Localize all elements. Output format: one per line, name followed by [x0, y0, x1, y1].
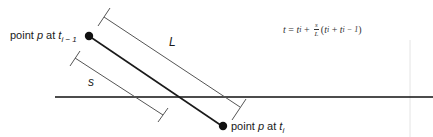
- end-point-label: point p at ti: [231, 121, 284, 135]
- formula-paren: ): [358, 24, 361, 35]
- length-L-label: L: [169, 36, 176, 48]
- start-point-dot: [85, 32, 93, 40]
- label-text: point: [10, 29, 37, 41]
- fraction-denominator: L: [314, 30, 318, 38]
- start-point-label: point p at ti − 1: [10, 30, 77, 44]
- interpolation-formula: t = ti + s L (ti + ti − 1): [283, 21, 362, 38]
- length-s-label: s: [88, 76, 94, 88]
- formula-fraction: s L: [314, 21, 319, 38]
- label-text: at: [43, 29, 58, 41]
- label-text: at: [264, 120, 279, 132]
- end-point-dot: [219, 122, 227, 130]
- segment-line: [89, 36, 222, 126]
- formula-sub: i − 1: [343, 25, 359, 34]
- formula-op: +: [301, 24, 312, 35]
- length-s-bracket: [70, 51, 168, 122]
- label-sub: i: [282, 126, 284, 135]
- formula-op: +: [329, 24, 340, 35]
- length-L-bracket: [98, 8, 246, 120]
- label-sub: i − 1: [61, 35, 76, 44]
- fraction-numerator: s: [314, 21, 319, 30]
- diagram-canvas: [0, 0, 433, 137]
- formula-op: =: [286, 24, 297, 35]
- label-text: point: [231, 120, 258, 132]
